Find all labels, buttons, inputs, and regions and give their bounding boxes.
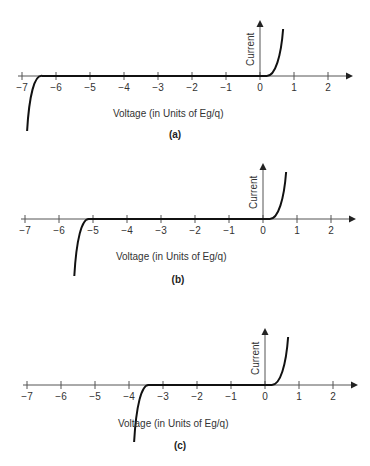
y-axis-arrow-icon [257, 20, 264, 27]
x-tick-label: −2 [191, 391, 203, 402]
x-tick-label: −3 [157, 391, 169, 402]
x-tick-label: −5 [87, 225, 99, 236]
x-tick-label: −7 [16, 82, 28, 93]
x-tick-label: −5 [89, 391, 101, 402]
x-tick-label: −7 [21, 391, 33, 402]
panel-b: −7−6−5−4−3−2−1012CurrentVoltage (in Unit… [19, 163, 356, 285]
x-axis-arrow-icon [351, 382, 358, 389]
x-tick-label: 1 [296, 391, 302, 402]
y-axis-arrow-icon [262, 328, 269, 335]
x-tick-label: −2 [189, 225, 201, 236]
x-tick-label: 2 [325, 82, 331, 93]
x-tick-label: −3 [155, 225, 167, 236]
x-tick-label: 1 [291, 82, 297, 93]
panel-label: (c) [174, 440, 186, 451]
x-tick-label: −4 [118, 82, 130, 93]
x-tick-label: −6 [50, 82, 62, 93]
x-tick-label: −7 [19, 225, 31, 236]
x-tick-label: 2 [330, 391, 336, 402]
iv-curves-figure: −7−6−5−4−3−2−1012CurrentVoltage (in Unit… [0, 0, 370, 466]
panel-c: −7−6−5−4−3−2−1012CurrentVoltage (in Unit… [21, 328, 358, 451]
panel-label: (a) [169, 129, 181, 140]
x-axis-label: Voltage (in Units of Eg/q) [116, 251, 227, 262]
x-tick-label: −4 [121, 225, 133, 236]
x-tick-label: 1 [294, 225, 300, 236]
x-tick-label: −5 [84, 82, 96, 93]
x-tick-label: 0 [257, 82, 263, 93]
x-tick-label: −3 [152, 82, 164, 93]
panel-label: (b) [172, 274, 185, 285]
x-tick-label: −1 [220, 82, 232, 93]
x-tick-label: −1 [225, 391, 237, 402]
x-tick-label: −6 [55, 391, 67, 402]
y-axis-label: Current [248, 175, 259, 209]
x-axis-label: Voltage (in Units of Eg/q) [113, 108, 224, 119]
x-tick-label: 2 [328, 225, 334, 236]
x-axis-label: Voltage (in Units of Eg/q) [118, 418, 229, 429]
x-tick-label: −1 [223, 225, 235, 236]
x-tick-label: 0 [262, 391, 268, 402]
x-tick-label: 0 [260, 225, 266, 236]
y-axis-arrow-icon [260, 163, 267, 170]
x-axis-arrow-icon [349, 216, 356, 223]
x-tick-label: −2 [186, 82, 198, 93]
x-tick-label: −6 [53, 225, 65, 236]
x-tick-label: −4 [123, 391, 135, 402]
panel-a: −7−6−5−4−3−2−1012CurrentVoltage (in Unit… [16, 20, 353, 140]
y-axis-label: Current [250, 341, 261, 375]
x-axis-arrow-icon [346, 73, 353, 80]
y-axis-label: Current [245, 32, 256, 66]
